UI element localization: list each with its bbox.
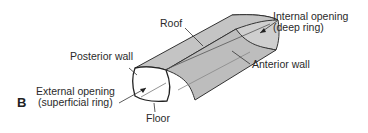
floor-leader — [154, 103, 155, 112]
inguinal-canal-diagram: Roof Posterior wall Internal opening (de… — [0, 0, 368, 133]
label-anterior-wall: Anterior wall — [252, 59, 310, 70]
label-floor: Floor — [146, 113, 170, 124]
label-posterior-wall: Posterior wall — [70, 51, 133, 62]
label-external-opening-line2: (superficial ring) — [38, 97, 113, 108]
label-internal-opening-line2: (deep ring) — [273, 22, 324, 33]
label-roof: Roof — [160, 18, 182, 29]
panel-label: B — [17, 95, 26, 110]
